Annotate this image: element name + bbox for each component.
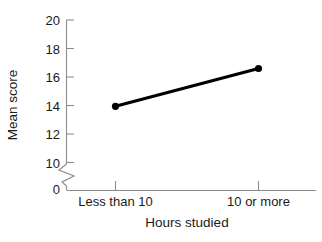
y-axis-title: Mean score xyxy=(5,70,20,141)
y-tick-label-14: 14 xyxy=(46,99,60,114)
x-tick-label-1: Less than 10 xyxy=(78,194,152,209)
line-chart: 20 18 16 14 12 10 0 Mean score Less than… xyxy=(0,0,322,242)
y-tick-label-20: 20 xyxy=(46,13,60,28)
y-tick-label-10: 10 xyxy=(46,156,60,171)
y-tick-label-16: 16 xyxy=(46,70,60,85)
y-tick-label-12: 12 xyxy=(46,127,60,142)
data-point-less-than-10 xyxy=(112,103,119,110)
x-tick-label-2: 10 or more xyxy=(227,194,290,209)
x-axis-title: Hours studied xyxy=(145,215,228,230)
y-tick-label-0: 0 xyxy=(53,182,60,197)
chart-figure: 20 18 16 14 12 10 0 Mean score Less than… xyxy=(0,0,322,242)
data-point-10-or-more xyxy=(255,65,262,72)
y-tick-label-18: 18 xyxy=(46,42,60,57)
